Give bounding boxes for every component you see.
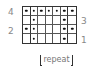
chart-cell [61, 7, 69, 16]
purl-dot-icon [33, 28, 35, 30]
chart-cell [68, 7, 76, 16]
chart-cell [38, 34, 46, 43]
chart-cell [46, 7, 54, 16]
purl-dot-icon [63, 10, 65, 12]
repeat-bracket: repeat [40, 55, 73, 66]
chart-cell [68, 16, 76, 25]
purl-dot-icon [48, 10, 50, 12]
purl-dot-icon [33, 10, 35, 12]
chart-cell [53, 25, 61, 34]
chart-cell [61, 34, 69, 43]
chart-cell [38, 16, 46, 25]
chart-cell [31, 16, 39, 25]
purl-dot-icon [71, 10, 73, 12]
row-label-1: 1 [81, 36, 87, 45]
chart-cell [31, 34, 39, 43]
chart-cell [68, 34, 76, 43]
stitch-chart-grid [22, 6, 77, 44]
chart-cell [23, 25, 31, 34]
chart-cell [31, 25, 39, 34]
chart-cell [46, 25, 54, 34]
row-label-3: 3 [81, 17, 87, 26]
chart-cell [61, 16, 69, 25]
chart-cell [23, 16, 31, 25]
purl-dot-icon [71, 28, 73, 30]
purl-dot-icon [33, 19, 35, 21]
bracket-left-icon [40, 55, 42, 66]
chart-cell [38, 7, 46, 16]
chart-cell [31, 7, 39, 16]
purl-dot-icon [55, 10, 57, 12]
purl-dot-icon [63, 37, 65, 39]
bracket-right-icon [71, 55, 73, 66]
chart-cell [61, 25, 69, 34]
chart-cell [68, 25, 76, 34]
chart-cell [46, 34, 54, 43]
chart-cell [53, 34, 61, 43]
purl-dot-icon [25, 10, 27, 12]
purl-dot-icon [40, 10, 42, 12]
chart-cell [46, 16, 54, 25]
chart-cell [53, 7, 61, 16]
purl-dot-icon [33, 37, 35, 39]
chart-cell [38, 25, 46, 34]
chart-cell [53, 16, 61, 25]
chart-cell [23, 7, 31, 16]
chart-cell [23, 34, 31, 43]
row-label-2: 2 [8, 27, 14, 36]
row-label-4: 4 [8, 8, 14, 17]
purl-dot-icon [25, 28, 27, 30]
purl-dot-icon [63, 28, 65, 30]
repeat-label: repeat [43, 55, 69, 64]
purl-dot-icon [63, 19, 65, 21]
